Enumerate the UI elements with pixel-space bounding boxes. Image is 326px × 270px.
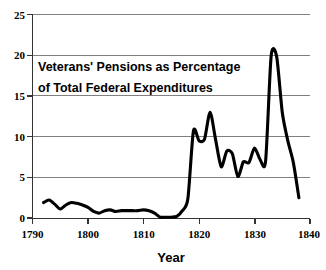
x-tick-label-1840: 1840 [298,228,321,240]
y-tick-label-15: 15 [14,90,26,102]
chart-title: Veterans' Pensions as Percentage of Tota… [38,60,240,95]
chart-title-line1: Veterans' Pensions as Percentage [38,60,240,74]
x-tick-label-1810: 1810 [133,228,156,240]
x-axis-title: Year [157,250,184,265]
x-axis: 1790 1800 1810 1820 1830 1840 [22,219,321,241]
chart-page: 25 20 15 10 5 0 1790 1800 1810 1820 1830… [0,0,326,270]
y-tick-label-0: 0 [20,212,26,224]
x-tick-label-1790: 1790 [22,228,45,240]
y-tick-label-25: 25 [14,9,26,21]
chart-title-line2: of Total Federal Expenditures [38,81,213,95]
veterans-pensions-line-chart: 25 20 15 10 5 0 1790 1800 1810 1820 1830… [0,0,326,270]
x-tick-label-1820: 1820 [188,228,211,240]
y-tick-label-5: 5 [20,171,26,183]
y-axis: 25 20 15 10 5 0 [14,9,33,225]
x-tick-label-1800: 1800 [77,228,100,240]
y-tick-label-10: 10 [14,131,26,143]
x-tick-label-1830: 1830 [244,228,267,240]
y-tick-label-20: 20 [14,49,26,61]
